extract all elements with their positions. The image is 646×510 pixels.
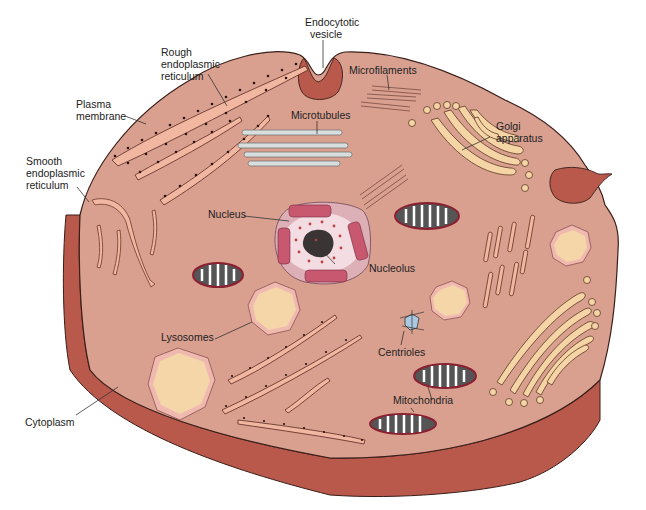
- label-mitochondria: Mitochondria: [393, 394, 453, 406]
- label-smooth-er-1: Smooth: [26, 155, 62, 167]
- label-golgi-1: Golgi: [496, 120, 521, 132]
- label-centrioles: Centrioles: [378, 346, 425, 358]
- nucleus: [275, 202, 370, 284]
- label-golgi-2: apparatus: [496, 132, 543, 144]
- mitochondrion: [395, 203, 459, 229]
- label-smooth-er-2: endoplasmic: [26, 167, 85, 179]
- label-plasma-membrane-1: Plasma: [76, 98, 111, 110]
- label-rough-er-1: Rough: [161, 46, 192, 58]
- label-smooth-er-3: reticulum: [26, 179, 69, 191]
- label-rough-er-3: reticulum: [161, 70, 204, 82]
- mitochondrion: [193, 263, 243, 287]
- label-endocytotic-vesicle-1: Endocytotic: [305, 16, 359, 28]
- label-endocytotic-vesicle-2: vesicle: [310, 28, 342, 40]
- label-nucleolus: Nucleolus: [369, 262, 415, 274]
- label-microfilaments: Microfilaments: [349, 64, 417, 76]
- label-rough-er-2: endoplasmic: [161, 58, 220, 70]
- label-nucleus: Nucleus: [208, 208, 246, 220]
- label-lysosomes: Lysosomes: [161, 331, 214, 343]
- label-cytoplasm: Cytoplasm: [25, 416, 75, 428]
- cell-diagram: Endocytotic vesicle Rough endoplasmic re…: [0, 0, 646, 510]
- mitochondrion: [370, 414, 436, 434]
- label-plasma-membrane-2: membrane: [76, 110, 126, 122]
- label-microtubules: Microtubules: [291, 109, 351, 121]
- mitochondrion: [414, 364, 476, 388]
